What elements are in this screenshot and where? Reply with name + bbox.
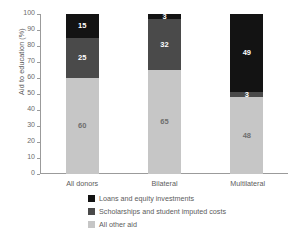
bar-segment[interactable]: 60 — [66, 78, 99, 174]
bar-segment[interactable]: 32 — [148, 19, 181, 70]
legend-label: Loans and equity investments — [99, 195, 194, 202]
bar-segment-label: 32 — [160, 41, 168, 49]
y-axis-tick-mark — [37, 94, 40, 95]
y-axis-tick-label: 80 — [27, 41, 35, 48]
x-axis-category-label: Bilateral — [148, 179, 181, 188]
y-axis-tick-mark — [37, 142, 40, 143]
bar-segment-label: 60 — [78, 122, 86, 130]
bar-segment-label: 49 — [243, 49, 251, 57]
y-axis-tick-label: 30 — [27, 121, 35, 128]
bar-segment-label: 25 — [78, 54, 86, 62]
bar-segment[interactable]: 15 — [66, 14, 99, 38]
y-axis-tick-mark — [37, 158, 40, 159]
bar-stack: 152560 — [66, 14, 99, 174]
y-axis-tick-mark — [37, 14, 40, 15]
bar-group[interactable]: 49348Multilateral — [230, 14, 263, 174]
bar-group[interactable]: 152560All donors — [66, 14, 99, 174]
legend-item[interactable]: Loans and equity investments — [88, 194, 226, 203]
bar-segment-label: 65 — [160, 118, 168, 126]
y-axis-tick-label: 70 — [27, 57, 35, 64]
bar-stack: 49348 — [230, 14, 263, 174]
y-axis-tick-mark — [37, 30, 40, 31]
bar-segment[interactable]: 65 — [148, 70, 181, 174]
legend-label: Scholarships and student imputed costs — [99, 208, 226, 215]
y-axis-tick-label: 40 — [27, 105, 35, 112]
y-axis-tick-label: 100 — [23, 9, 35, 16]
y-axis-tick-mark — [37, 126, 40, 127]
y-axis-tick-label: 0 — [31, 169, 35, 176]
legend-item[interactable]: All other aid — [88, 220, 226, 229]
legend-swatch-icon — [88, 221, 95, 228]
y-axis-tick-mark — [37, 78, 40, 79]
bar-stack: 33265 — [148, 14, 181, 174]
y-axis-tick-mark — [37, 62, 40, 63]
y-axis-tick-mark — [37, 46, 40, 47]
y-axis-tick-label: 60 — [27, 73, 35, 80]
bar-segment[interactable]: 48 — [230, 97, 263, 174]
legend-item[interactable]: Scholarships and student imputed costs — [88, 207, 226, 216]
legend-label: All other aid — [99, 221, 137, 228]
bar-segment[interactable]: 25 — [66, 38, 99, 78]
bar-segment-label: 48 — [243, 132, 251, 140]
stacked-bar-chart: Aid to education (%) 0102030405060708090… — [0, 0, 299, 244]
y-axis-title: Aid to education (%) — [17, 2, 26, 122]
y-axis-tick-label: 20 — [27, 137, 35, 144]
y-axis-tick-label: 10 — [27, 153, 35, 160]
y-axis-tick-mark — [37, 174, 40, 175]
x-axis-category-label: Multilateral — [230, 179, 263, 188]
bars-layer: 152560All donors33265Bilateral49348Multi… — [41, 14, 288, 174]
x-axis-category-label: All donors — [66, 179, 99, 188]
bar-segment-label: 15 — [78, 22, 86, 30]
y-axis-tick-label: 50 — [27, 89, 35, 96]
y-axis-tick-mark — [37, 110, 40, 111]
y-axis-tick-label: 90 — [27, 25, 35, 32]
legend-swatch-icon — [88, 208, 95, 215]
bar-group[interactable]: 33265Bilateral — [148, 14, 181, 174]
legend-swatch-icon — [88, 195, 95, 202]
chart-legend: Loans and equity investmentsScholarships… — [88, 194, 226, 229]
bar-segment[interactable]: 49 — [230, 14, 263, 92]
plot-area: 0102030405060708090100 152560All donors3… — [40, 14, 288, 174]
